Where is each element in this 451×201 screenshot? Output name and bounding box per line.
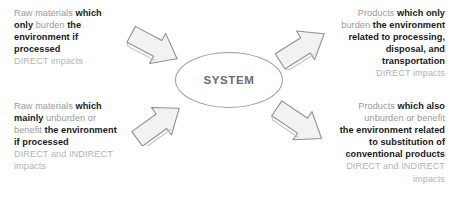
text-run: environment if xyxy=(14,32,78,42)
text-run: DIRECT and INDIRECT xyxy=(14,149,113,159)
diagram-canvas: Raw materials whichonly burden theenviro… xyxy=(0,0,451,201)
arrow-output-top-icon xyxy=(272,24,334,70)
text-run: processed xyxy=(14,44,60,54)
arrow-input-bottom-icon xyxy=(128,100,190,146)
text-line: DIRECT and INDIRECT xyxy=(293,160,445,172)
text-run: Products xyxy=(358,8,397,18)
arrow-input-top-icon xyxy=(124,24,186,70)
text-run: mainly xyxy=(14,113,46,123)
text-run: which only xyxy=(397,8,445,18)
arrow-output-bottom-icon xyxy=(268,100,332,148)
text-line: conventional products xyxy=(293,148,445,160)
text-line: DIRECT and INDIRECT xyxy=(14,148,162,160)
system-label: SYSTEM xyxy=(176,53,282,107)
text-line: Products which only xyxy=(293,7,445,19)
text-run: which xyxy=(75,8,101,18)
text-run: Raw materials xyxy=(14,101,75,111)
text-line: impacts xyxy=(14,160,162,172)
text-run: related to processing, xyxy=(348,32,445,42)
text-run: DIRECT impacts xyxy=(376,68,445,78)
text-run: Products xyxy=(358,101,397,111)
text-run: if processed xyxy=(14,137,69,147)
text-run: to substitution of xyxy=(369,137,445,147)
text-run: which also xyxy=(398,101,445,111)
text-run: the xyxy=(67,20,81,30)
text-run: unburden or xyxy=(46,113,96,123)
text-run: the environment related xyxy=(340,125,445,135)
text-run: the environment xyxy=(45,125,117,135)
text-run: benefit xyxy=(14,125,45,135)
text-line: impacts xyxy=(293,173,445,185)
text-run: disposal, and xyxy=(386,44,445,54)
text-run: conventional products xyxy=(345,149,445,159)
text-run: transportation xyxy=(382,56,445,66)
text-run: which xyxy=(75,101,101,111)
text-run: burden xyxy=(341,20,373,30)
text-run: only xyxy=(14,20,36,30)
text-run: burden xyxy=(36,20,68,30)
text-run: impacts xyxy=(413,174,445,184)
text-run: impacts xyxy=(14,161,46,171)
text-line: Raw materials which xyxy=(14,7,162,19)
text-run: the environment xyxy=(373,20,445,30)
system-ellipse: SYSTEM xyxy=(175,52,283,108)
text-run: Raw materials xyxy=(14,8,75,18)
text-run: unburden or benefit xyxy=(364,113,445,123)
text-run: DIRECT impacts xyxy=(14,56,83,66)
text-run: DIRECT and INDIRECT xyxy=(346,161,445,171)
